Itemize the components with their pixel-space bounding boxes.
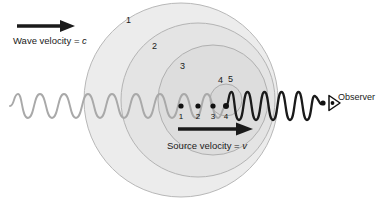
source-dot-1	[178, 103, 183, 108]
source-velocity-symbol: v	[242, 140, 247, 151]
wavefront-label-5: 5	[228, 75, 233, 84]
doppler-effect-figure: 1 2 3 4 5 1 2 3 4 Wave velocity = c Sour…	[0, 0, 378, 204]
wavefront-label-1: 1	[126, 16, 131, 25]
source-dot-2	[195, 103, 200, 108]
doppler-diagram-canvas	[0, 0, 378, 204]
source-position-label-1: 1	[177, 113, 185, 121]
source-velocity-caption: Source velocity = v	[167, 141, 247, 151]
wavefront-label-4: 4	[218, 76, 223, 85]
source-position-label-4: 4	[222, 113, 230, 121]
source-dot-3	[210, 103, 215, 108]
wave-velocity-symbol: c	[82, 35, 87, 46]
source-dot-4	[223, 103, 229, 109]
source-position-label-3: 3	[209, 113, 217, 121]
wavefront-label-3: 3	[180, 62, 185, 71]
wavefront-circles	[84, 3, 278, 197]
source-position-label-2: 2	[194, 113, 202, 121]
wave-velocity-arrow	[17, 20, 75, 32]
observer-label: Observer	[338, 93, 375, 102]
observer-dot-icon	[320, 100, 325, 105]
observer-ear-inner-icon	[331, 101, 335, 105]
source-velocity-caption-text: Source velocity =	[167, 140, 242, 151]
wave-velocity-caption-text: Wave velocity =	[13, 35, 82, 46]
wavefront-label-2: 2	[152, 42, 157, 51]
wave-velocity-caption: Wave velocity = c	[13, 36, 87, 46]
